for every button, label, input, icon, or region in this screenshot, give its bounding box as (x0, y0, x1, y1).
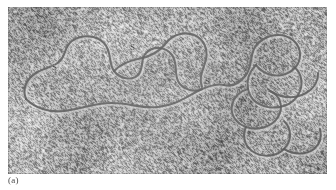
micrograph-image (8, 7, 327, 174)
panel-caption: (a) (8, 176, 19, 185)
micrograph-plate: SSS (8, 7, 327, 174)
figure-root: SSS (a) (0, 0, 336, 190)
